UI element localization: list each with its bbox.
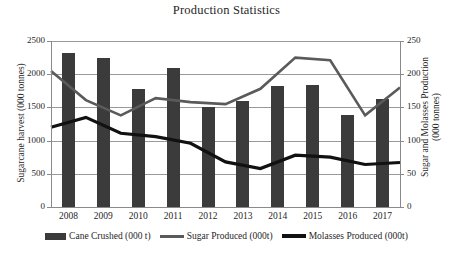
x-axis-tick-label: 2017: [363, 211, 403, 221]
y-axis-left-tick-label: 1000: [9, 135, 45, 145]
y-axis-right-tick-mark: [400, 207, 404, 208]
y-axis-right-tick-label: 0: [407, 201, 443, 211]
y-axis-left-tick-label: 0: [9, 201, 45, 211]
y-axis-left-tick-label: 1500: [9, 101, 45, 111]
y-axis-left-tick-label: 2000: [9, 68, 45, 78]
y-axis-right-tick-label: 100: [407, 135, 443, 145]
y-axis-right-tick-mark: [400, 107, 404, 108]
legend-label: Sugar Produced (000t): [187, 231, 273, 241]
legend-label: Cane Crushed (000 t): [69, 231, 151, 241]
legend-swatch-line-black-icon: [282, 234, 306, 238]
chart-title: Production Statistics: [0, 3, 453, 18]
y-axis-left-tick-label: 500: [9, 168, 45, 178]
y-axis-right-tick-label: 50: [407, 168, 443, 178]
y-axis-right-tick-mark: [400, 41, 404, 42]
y-axis-right-tick-mark: [400, 141, 404, 142]
y-axis-right-tick-mark: [400, 174, 404, 175]
y-axis-right-tick-label: 150: [407, 101, 443, 111]
y-axis-right-tick-label: 200: [407, 68, 443, 78]
gridline: [51, 207, 400, 208]
legend-item[interactable]: Molasses Produced (000t): [282, 231, 408, 241]
y-axis-left-tick-mark: [47, 41, 51, 42]
y-axis-left-tick-mark: [47, 207, 51, 208]
y-axis-left-tick-mark: [47, 141, 51, 142]
y-axis-right-tick-label: 250: [407, 35, 443, 45]
y-axis-left-tick-mark: [47, 174, 51, 175]
y-axis-left-line: [51, 41, 52, 207]
y-axis-left-tick-label: 2500: [9, 35, 45, 45]
y-axis-right-line: [400, 41, 401, 207]
y-axis-left-tick-mark: [47, 74, 51, 75]
y-axis-left-tick-mark: [47, 107, 51, 108]
line-molasses-produced: [51, 117, 400, 168]
chart-container: Production Statistics Sugarcane harvest …: [0, 0, 453, 258]
y-axis-right-tick-mark: [400, 74, 404, 75]
line-sugar-produced: [51, 58, 400, 116]
legend-swatch-bar-icon: [45, 233, 66, 240]
plot-area: [51, 41, 400, 207]
y-axis-left-title: Sugarcane harvest (000 tonnes): [16, 38, 26, 208]
line-series-layer: [51, 41, 400, 207]
legend-label: Molasses Produced (000t): [309, 231, 408, 241]
chart-legend: Cane Crushed (000 t)Sugar Produced (000t…: [0, 231, 453, 241]
legend-item[interactable]: Sugar Produced (000t): [160, 231, 273, 241]
legend-swatch-line-gray-icon: [160, 235, 184, 238]
legend-item[interactable]: Cane Crushed (000 t): [45, 231, 151, 241]
